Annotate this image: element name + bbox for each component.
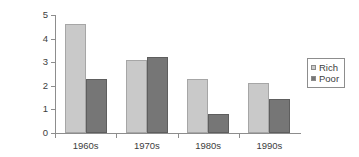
x-axis-tick [116, 134, 117, 138]
bar-rich-1990s [248, 83, 269, 133]
x-axis-tick [178, 134, 179, 138]
legend-swatch-poor-icon [311, 76, 316, 81]
y-axis-tick-label: 4 [8, 34, 48, 44]
y-axis-tick-label: 1 [8, 104, 48, 114]
x-axis-tick [239, 134, 240, 138]
legend-swatch-rich-icon [311, 65, 316, 70]
legend-label-rich: Rich [319, 63, 338, 73]
bar-poor-1990s [269, 99, 290, 133]
bar-poor-1980s [208, 114, 229, 133]
y-axis-tick-label: 2 [8, 81, 48, 91]
legend: Rich Poor [307, 58, 345, 88]
x-axis-label-1970s: 1970s [116, 140, 178, 151]
bar-rich-1960s [65, 24, 86, 133]
y-axis-tick-label: 0 [8, 128, 48, 138]
legend-item-poor[interactable]: Poor [311, 73, 339, 84]
bar-poor-1970s [147, 57, 168, 133]
x-axis-tick [55, 134, 56, 138]
legend-label-poor: Poor [319, 74, 339, 84]
bar-chart: Real per capita GDP growth (% pa) 012345… [0, 0, 359, 157]
bar-rich-1980s [187, 79, 208, 133]
bar-rich-1970s [126, 60, 147, 133]
plot-area [55, 15, 300, 133]
bar-poor-1960s [86, 79, 107, 133]
y-axis-tick-label: 5 [8, 10, 48, 20]
x-axis-label-1990s: 1990s [238, 140, 300, 151]
legend-item-rich[interactable]: Rich [311, 62, 339, 73]
x-axis-label-1960s: 1960s [55, 140, 117, 151]
x-axis-label-1980s: 1980s [177, 140, 239, 151]
y-axis-tick-label: 3 [8, 57, 48, 67]
